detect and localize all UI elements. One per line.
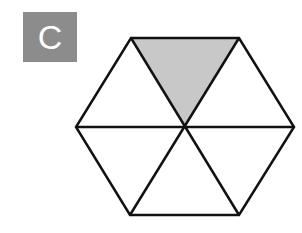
- hexagon-diagram: [0, 0, 302, 233]
- shaded-triangle: [131, 38, 239, 127]
